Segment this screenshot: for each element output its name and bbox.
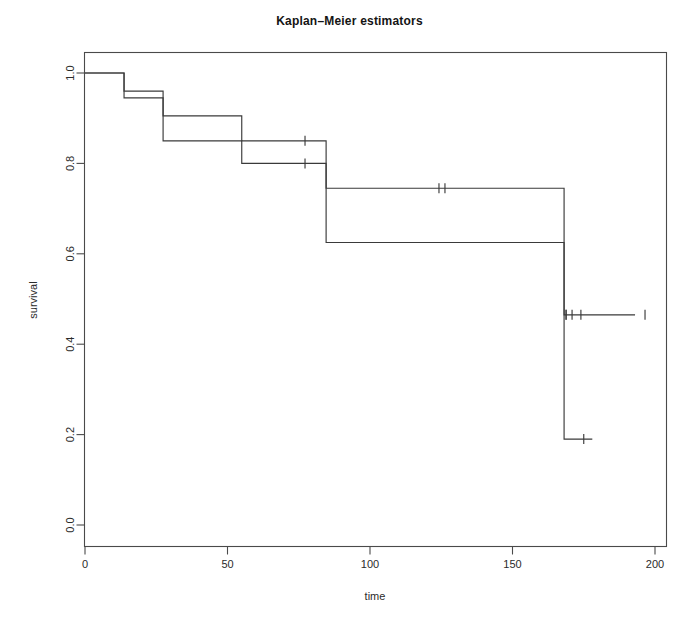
kaplan-meier-plot: Kaplan–Meier estimators 0.00.20.40.60.81… bbox=[0, 0, 699, 628]
y-tick-label-0.0: 0.0 bbox=[64, 517, 76, 532]
y-tick-label-0.2: 0.2 bbox=[64, 427, 76, 442]
x-tick-label-150: 150 bbox=[503, 558, 521, 570]
x-tick-label-200: 200 bbox=[646, 558, 664, 570]
y-tick-label-1.0: 1.0 bbox=[64, 65, 76, 80]
y-tick-label-0.4: 0.4 bbox=[64, 337, 76, 352]
y-axis-ticks: 0.00.20.40.60.81.0 bbox=[64, 65, 84, 532]
plot-frame bbox=[85, 53, 667, 547]
series-layer bbox=[85, 73, 645, 444]
y-tick-label-0.6: 0.6 bbox=[64, 246, 76, 261]
x-axis-ticks: 050100150200 bbox=[82, 547, 664, 570]
x-tick-label-50: 50 bbox=[221, 558, 233, 570]
x-tick-label-0: 0 bbox=[82, 558, 88, 570]
x-tick-label-100: 100 bbox=[361, 558, 379, 570]
y-axis-title: survival bbox=[27, 281, 39, 318]
km-curve-group-1 bbox=[85, 73, 635, 315]
y-tick-label-0.8: 0.8 bbox=[64, 156, 76, 171]
plot-canvas: 0.00.20.40.60.81.0 050100150200 time sur… bbox=[0, 0, 699, 628]
x-axis-title: time bbox=[365, 590, 386, 602]
km-curve-group-2 bbox=[85, 73, 592, 439]
